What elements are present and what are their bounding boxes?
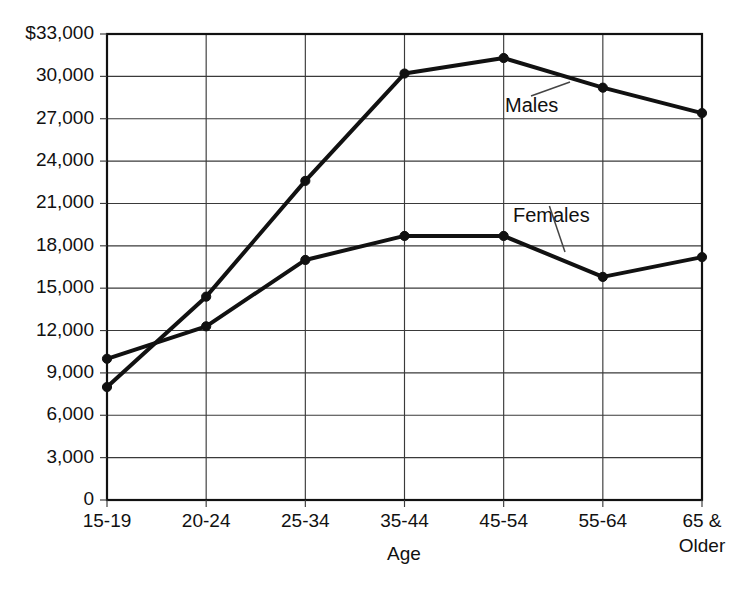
data-point-females [598, 272, 607, 281]
line-chart: 03,0006,0009,00012,00015,00018,00021,000… [0, 0, 745, 592]
chart-canvas: 03,0006,0009,00012,00015,00018,00021,000… [0, 0, 745, 592]
y-axis-tick-label: 21,000 [36, 191, 94, 212]
data-point-males [697, 108, 706, 117]
y-axis-tick-label: $33,000 [25, 22, 94, 43]
y-axis-tick-label: 3,000 [46, 446, 94, 467]
data-point-females [400, 231, 409, 240]
y-axis-tick-label: 18,000 [36, 234, 94, 255]
x-axis-tick-label: 20-24 [182, 510, 231, 531]
data-point-males [202, 292, 211, 301]
series-label-females: Females [513, 204, 590, 226]
y-axis-tick-label: 27,000 [36, 107, 94, 128]
data-point-males [499, 53, 508, 62]
y-axis-tick-label: 24,000 [36, 149, 94, 170]
data-point-males [400, 69, 409, 78]
y-axis-tick-label: 12,000 [36, 319, 94, 340]
x-axis-tick-label: 25-34 [281, 510, 330, 531]
y-axis-tick-label: 0 [83, 488, 94, 509]
y-axis-tick-label: 15,000 [36, 276, 94, 297]
data-point-males [598, 83, 607, 92]
x-axis-title: Age [387, 543, 421, 564]
x-axis-tick-label: 45-54 [479, 510, 528, 531]
y-axis-tick-label: 9,000 [46, 361, 94, 382]
x-axis-tick-label: 35-44 [380, 510, 429, 531]
data-point-females [499, 231, 508, 240]
y-axis-tick-label: 6,000 [46, 403, 94, 424]
data-point-females [697, 253, 706, 262]
data-point-females [102, 354, 111, 363]
data-point-males [102, 382, 111, 391]
y-axis-tick-label: 30,000 [36, 64, 94, 85]
data-point-males [301, 176, 310, 185]
chart-background [0, 0, 745, 592]
series-label-males: Males [505, 94, 558, 116]
data-point-females [301, 255, 310, 264]
x-axis-tick-label: 15-19 [83, 510, 132, 531]
data-point-females [202, 322, 211, 331]
x-axis-tick-label: 55-64 [579, 510, 628, 531]
